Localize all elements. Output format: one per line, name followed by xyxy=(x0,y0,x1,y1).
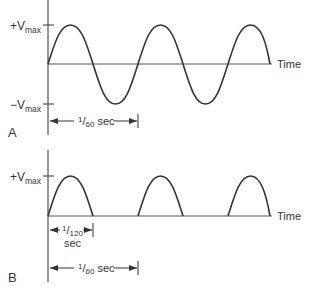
panel-a-time-label: Time xyxy=(277,58,301,70)
panel-a-pos-vmax-label: +Vmax xyxy=(10,19,42,35)
panel-b-half-label: 1/120 xyxy=(62,224,83,238)
panel-b-half-unit: sec xyxy=(64,237,82,249)
panel-b-time-label: Time xyxy=(277,210,301,222)
waveform-diagram: +Vmax −Vmax Time 1/60 sec A +Vmax Time 1… xyxy=(0,0,310,289)
panel-a: +Vmax −Vmax Time 1/60 sec A xyxy=(8,0,301,140)
panel-a-period-label: 1/60 sec xyxy=(78,115,115,129)
panel-b: +Vmax Time 1/120 sec 1/60 sec B xyxy=(8,150,301,285)
panel-a-neg-vmax-label: −Vmax xyxy=(10,98,42,114)
panel-b-letter: B xyxy=(8,270,17,285)
panel-b-pos-vmax-label: +Vmax xyxy=(10,170,42,186)
panel-b-period-label: 1/60 sec xyxy=(78,262,115,276)
panel-a-letter: A xyxy=(8,125,17,140)
panel-b-rectified-wave xyxy=(48,176,270,216)
